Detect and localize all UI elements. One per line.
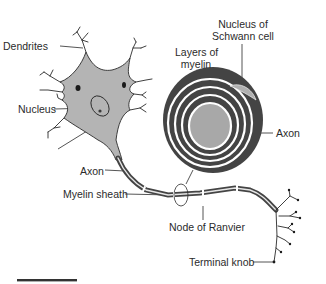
cell-body-spot-right — [122, 82, 126, 88]
label-node-of-ranvier: Node of Ranvier — [169, 221, 245, 233]
label-dendrites: Dendrites — [3, 40, 48, 52]
scale-bar — [17, 279, 77, 281]
label-nucleus: Nucleus — [18, 103, 56, 115]
nucleolus — [98, 109, 101, 112]
label-axon-cross-section: Axon — [276, 127, 300, 139]
neuron-diagram — [0, 0, 326, 284]
label-nucleus-schwann-2: Schwann cell — [210, 30, 276, 42]
label-axon: Axon — [80, 165, 104, 177]
label-nucleus-schwann-1: Nucleus of — [210, 18, 276, 30]
myelin-cross-section — [163, 67, 263, 173]
cross-section-connector — [186, 170, 193, 184]
label-myelin-sheath: Myelin sheath — [63, 188, 128, 200]
label-terminal-knob: Terminal knob — [189, 256, 254, 268]
cell-body-spot-left — [76, 85, 81, 91]
label-layers-of-myelin-2: myelin — [175, 58, 217, 70]
terminal-branches — [274, 190, 300, 262]
label-layers-of-myelin-1: Layers of — [175, 46, 217, 58]
